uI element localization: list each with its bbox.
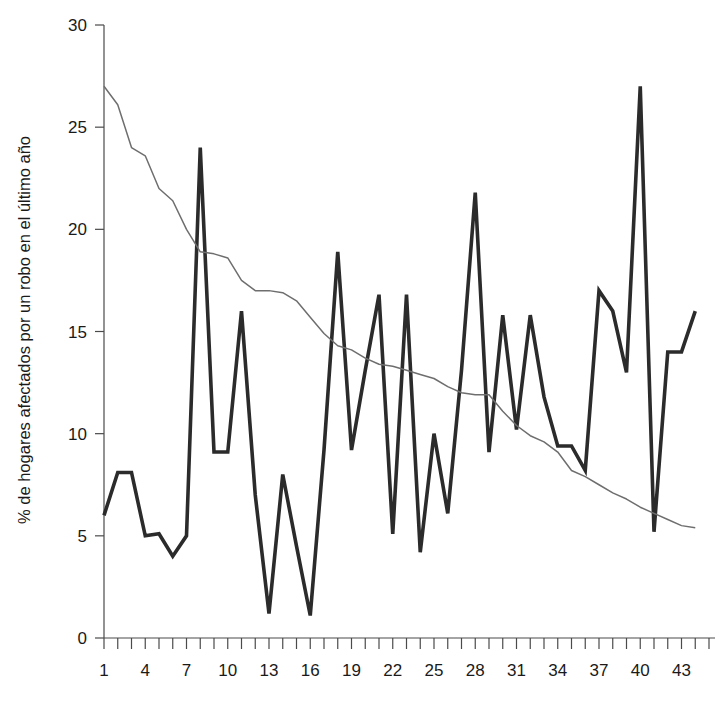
x-axis-tick-label: 43 [672,661,691,680]
y-axis-tick-label: 15 [68,323,87,342]
x-axis-tick-label: 10 [218,661,237,680]
x-axis-tick-label: 7 [182,661,191,680]
x-axis-tick-label: 34 [548,661,567,680]
x-axis-tick-label: 40 [631,661,650,680]
y-axis-tick-label: 30 [68,16,87,35]
y-axis-title: % de hogares afectados por un robo en el… [15,136,33,524]
series-line-serie-gruesa [104,86,695,615]
x-axis-tick-label: 25 [425,661,444,680]
x-axis-tick-label: 19 [342,661,361,680]
x-axis: 147101316192225283134374043 [99,638,715,680]
y-axis-tick-label: 0 [78,629,87,648]
line-chart: 051015202530 147101316192225283134374043… [0,0,724,707]
x-axis-tick-label: 22 [383,661,402,680]
series-layer [104,86,695,615]
x-axis-tick-label: 1 [99,661,108,680]
x-axis-tick-label: 31 [507,661,526,680]
y-axis: 051015202530 [68,16,104,648]
y-axis-tick-label: 10 [68,425,87,444]
chart-page: 051015202530 147101316192225283134374043… [0,0,724,707]
y-axis-tick-label: 5 [78,527,87,546]
x-axis-tick-label: 4 [141,661,150,680]
series-line-serie-fina [104,86,695,527]
x-axis-tick-label: 28 [466,661,485,680]
x-axis-tick-label: 13 [260,661,279,680]
y-axis-tick-label: 25 [68,118,87,137]
x-axis-tick-label: 16 [301,661,320,680]
y-axis-tick-label: 20 [68,220,87,239]
x-axis-tick-label: 37 [590,661,609,680]
